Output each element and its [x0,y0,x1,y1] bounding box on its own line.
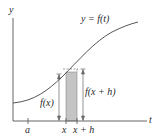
t-axis-label: t [149,114,152,125]
shaded-strip [66,72,77,121]
tick-label-x: x [61,124,67,135]
fxh-label: f(x + h) [85,86,116,98]
tick-label-a: a [25,124,30,135]
integral-diagram: y t y = f(t) f(x) f(x + h) a x x + h [0,0,158,139]
fx-label: f(x) [40,97,55,109]
curve-label: y = f(t) [80,13,110,25]
diagram-canvas: y t y = f(t) f(x) f(x + h) a x x + h [0,0,158,139]
y-axis-label: y [8,4,14,15]
tick-label-x-plus-h: x + h [72,124,94,135]
